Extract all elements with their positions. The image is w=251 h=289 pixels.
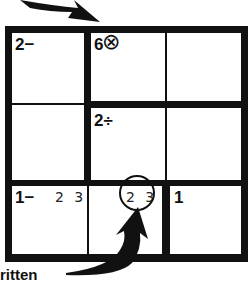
cage-clue-r3c3: 1: [174, 189, 183, 206]
cage-clue-r2c2: 2÷: [94, 112, 113, 129]
annotation-caption: ritten: [0, 266, 38, 283]
cell-r2c3[interactable]: [167, 108, 241, 180]
cell-r1c3[interactable]: [167, 33, 241, 101]
candidates-r3c1: 2 3: [55, 190, 86, 204]
cell-r2c1[interactable]: [12, 105, 84, 180]
pointer-arrow-icon: [60, 205, 160, 289]
cage-clue-r1c1: 2−: [15, 36, 34, 53]
cage-clue-r3c1: 1−: [15, 189, 34, 206]
crossed-out-circle-icon: ⊗: [102, 31, 120, 53]
